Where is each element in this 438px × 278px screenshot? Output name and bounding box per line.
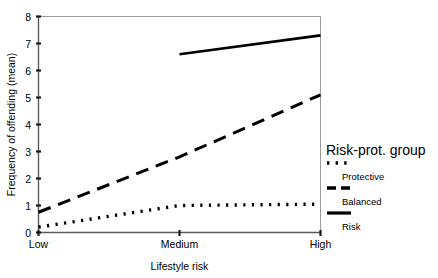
legend-title: Risk-prot. group — [326, 142, 426, 158]
legend-label-risk[interactable]: Risk — [342, 221, 361, 232]
y-tick-label: 6 — [25, 65, 31, 77]
y-tick-label: 4 — [25, 119, 31, 131]
y-axis-title: Frequency of offending (mean) — [5, 53, 17, 196]
x-tick-label: High — [310, 238, 332, 250]
x-axis-title: Lifestyle risk — [151, 260, 210, 272]
x-tick-label: Low — [29, 238, 49, 250]
y-tick-label: 8 — [25, 11, 31, 23]
x-tick-label: Medium — [161, 238, 199, 250]
legend-label-protective[interactable]: Protective — [342, 171, 384, 182]
y-tick-label: 0 — [25, 227, 31, 239]
y-axis-tick-labels: 8 7 6 5 4 3 2 1 0 — [25, 11, 31, 239]
y-tick-label: 7 — [25, 38, 31, 50]
y-tick-label: 1 — [25, 200, 31, 212]
chart-figure: 8 7 6 5 4 3 2 1 0 Frequency of offending… — [0, 0, 438, 278]
legend-label-balanced[interactable]: Balanced — [342, 196, 382, 207]
y-tick-label: 3 — [25, 146, 31, 158]
y-tick-label: 5 — [25, 92, 31, 104]
chart-svg: 8 7 6 5 4 3 2 1 0 Frequency of offending… — [0, 0, 438, 278]
y-tick-label: 2 — [25, 173, 31, 185]
